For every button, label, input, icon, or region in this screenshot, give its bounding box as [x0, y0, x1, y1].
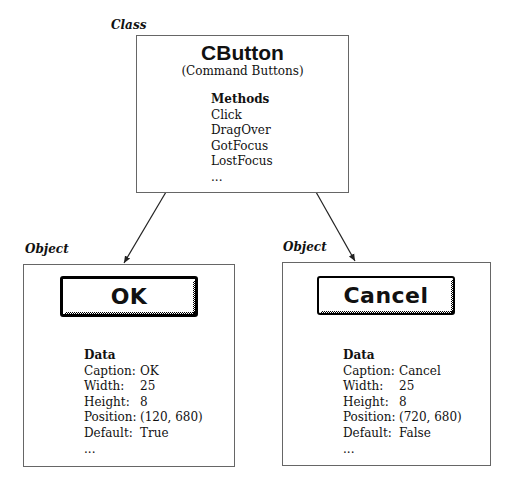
- field-value: (720, 680): [399, 410, 462, 426]
- field-value: (120, 680): [140, 410, 203, 426]
- field-key: Default:: [343, 426, 399, 442]
- ok-object-box: OK Data Caption:OK Width:25 Height:8 Pos…: [23, 264, 235, 467]
- ok-data-list: Data Caption:OK Width:25 Height:8 Positi…: [84, 348, 203, 457]
- method-item: Click: [211, 108, 273, 124]
- class-title: CButton: [137, 41, 348, 65]
- field-key: Caption:: [343, 364, 399, 380]
- ok-button-caption: OK: [111, 284, 148, 309]
- cancel-button[interactable]: Cancel: [317, 276, 455, 315]
- field-key: Height:: [84, 395, 140, 411]
- field-value: Cancel: [399, 364, 441, 380]
- field-value: OK: [140, 364, 159, 380]
- field-value: 8: [399, 395, 407, 411]
- button-shadow: [321, 311, 454, 314]
- data-row: Position:(720, 680): [343, 410, 462, 426]
- field-key: Height:: [343, 395, 399, 411]
- button-shadow: [65, 312, 196, 315]
- field-value: True: [140, 426, 169, 442]
- class-subtitle: (Command Buttons): [137, 64, 348, 78]
- data-heading: Data: [84, 348, 203, 364]
- method-item: DragOver: [211, 123, 273, 139]
- field-value: 8: [140, 395, 148, 411]
- field-key: Position:: [84, 410, 140, 426]
- methods-heading: Methods: [211, 92, 273, 108]
- class-box: CButton (Command Buttons) Methods Click …: [136, 35, 349, 193]
- cancel-object-box: Cancel Data Caption:Cancel Width:25 Heig…: [282, 262, 491, 466]
- field-value: 25: [140, 379, 155, 395]
- field-value: 25: [399, 379, 414, 395]
- field-key: Position:: [343, 410, 399, 426]
- field-key: Width:: [343, 379, 399, 395]
- data-row: Height:8: [343, 395, 462, 411]
- method-item: LostFocus: [211, 154, 273, 170]
- field-key: Default:: [84, 426, 140, 442]
- methods-list: Methods Click DragOver GotFocus LostFocu…: [211, 92, 273, 186]
- data-row: Position:(120, 680): [84, 410, 203, 426]
- method-ellipsis: ...: [211, 170, 273, 186]
- arrow-to-ok-object: [124, 192, 166, 263]
- field-key: Caption:: [84, 364, 140, 380]
- data-row: Default:True: [84, 426, 203, 442]
- method-item: GotFocus: [211, 139, 273, 155]
- data-row: Default:False: [343, 426, 462, 442]
- cancel-button-caption: Cancel: [343, 283, 428, 308]
- button-shadow: [193, 281, 196, 315]
- data-row: Height:8: [84, 395, 203, 411]
- data-heading: Data: [343, 348, 462, 364]
- ok-object-label: Object: [25, 242, 69, 256]
- field-value: False: [399, 426, 431, 442]
- cancel-object-label: Object: [283, 240, 327, 254]
- button-shadow: [451, 280, 454, 314]
- data-row: Caption:Cancel: [343, 364, 462, 380]
- class-label: Class: [111, 18, 146, 32]
- field-key: Width:: [84, 379, 140, 395]
- data-row: Caption:OK: [84, 364, 203, 380]
- cancel-data-list: Data Caption:Cancel Width:25 Height:8 Po…: [343, 348, 462, 457]
- data-ellipsis: ...: [84, 442, 203, 458]
- ok-button[interactable]: OK: [60, 276, 198, 317]
- data-row: Width:25: [84, 379, 203, 395]
- data-row: Width:25: [343, 379, 462, 395]
- data-ellipsis: ...: [343, 442, 462, 458]
